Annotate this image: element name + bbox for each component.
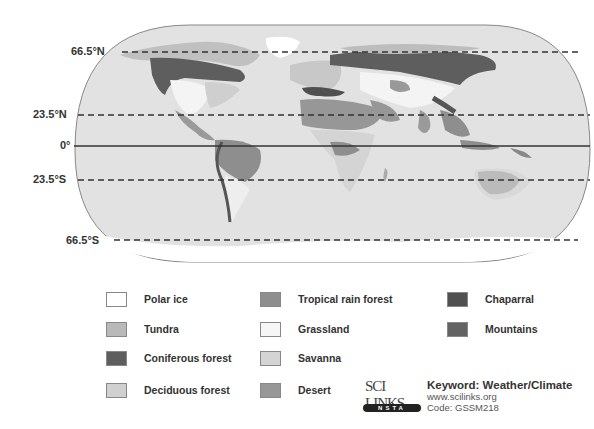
legend-desert: Desert (260, 381, 331, 399)
legend-label: Tundra (144, 323, 179, 335)
legend-label: Mountains (485, 323, 538, 335)
legend-swatch (106, 351, 127, 366)
scilinks-url[interactable]: www.scilinks.org (427, 391, 573, 402)
legend-label: Coniferous forest (144, 352, 232, 364)
scilinks-keyword: Keyword: Weather/Climate (427, 380, 573, 391)
scilinks-code: Code: GSSM218 (427, 402, 573, 413)
legend-label: Savanna (298, 352, 341, 364)
legend-chaparral: Chaparral (447, 290, 534, 308)
legend-label: Deciduous forest (144, 384, 230, 396)
legend-swatch (106, 383, 127, 398)
legend-mountains: Mountains (447, 320, 538, 338)
lat-label-66-5-s: 66.5°S (66, 234, 99, 246)
legend-label: Chaparral (485, 293, 534, 305)
legend-savanna: Savanna (260, 349, 341, 367)
legend-label: Grassland (298, 323, 349, 335)
nsta-bar: NSTA (363, 404, 421, 412)
legend-label: Desert (298, 384, 331, 396)
legend-swatch (260, 383, 281, 398)
legend-swatch (447, 322, 468, 337)
lat-label-66-5-n: 66.5°N (71, 45, 105, 57)
legend-polar-ice: Polar ice (106, 290, 188, 308)
legend-swatch (260, 351, 281, 366)
scilinks-block: SCI LINKS NSTA Keyword: Weather/Climate … (363, 376, 573, 416)
legend-tropical-rain-forest: Tropical rain forest (260, 290, 393, 308)
legend-swatch (106, 322, 127, 337)
legend-deciduous-forest: Deciduous forest (106, 381, 230, 399)
lat-label-23-5-n: 23.5°N (33, 108, 67, 120)
scilinks-logo[interactable]: SCI LINKS NSTA (363, 376, 421, 416)
legend-grassland: Grassland (260, 320, 349, 338)
legend-swatch (260, 322, 281, 337)
legend-tundra: Tundra (106, 320, 179, 338)
lat-label-equator: 0° (60, 139, 71, 151)
legend-label: Polar ice (144, 293, 188, 305)
lat-label-23-5-s: 23.5°S (33, 173, 66, 185)
legend-swatch (106, 292, 127, 307)
legend-swatch (260, 292, 281, 307)
legend-swatch (447, 292, 468, 307)
legend-coniferous-forest: Coniferous forest (106, 349, 232, 367)
legend-label: Tropical rain forest (298, 293, 393, 305)
